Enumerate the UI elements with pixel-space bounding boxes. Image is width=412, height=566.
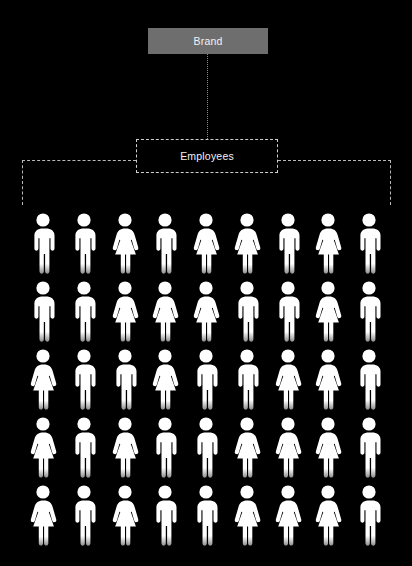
person-female-icon [230,212,264,274]
diagram-canvas: Brand Employees [0,0,412,566]
pictogram-row [0,212,412,280]
pictogram-row [0,280,412,348]
node-employees[interactable]: Employees [136,139,278,173]
person-male-icon [67,484,101,546]
person-female-icon [311,484,345,546]
bracket-drop-left [22,160,23,205]
person-female-icon [148,348,182,410]
person-female-icon [148,280,182,342]
person-male-icon [67,212,101,274]
node-brand[interactable]: Brand [148,28,268,54]
person-male-icon [67,280,101,342]
person-female-icon [311,348,345,410]
pictogram-row [0,484,412,552]
person-female-icon [311,212,345,274]
person-female-icon [108,416,142,478]
person-male-icon [189,484,223,546]
person-female-icon [271,416,305,478]
person-male-icon [26,280,60,342]
person-male-icon [189,348,223,410]
person-male-icon [352,416,386,478]
person-male-icon [271,212,305,274]
person-male-icon [352,212,386,274]
person-female-icon [230,484,264,546]
person-male-icon [67,348,101,410]
person-female-icon [26,416,60,478]
bracket-drop-right [390,160,391,205]
person-male-icon [352,348,386,410]
pictogram-row [0,348,412,416]
person-female-icon [311,416,345,478]
person-male-icon [352,484,386,546]
person-male-icon [67,416,101,478]
employee-pictogram-grid [0,212,412,552]
connector-brand-to-employees [207,54,208,139]
person-male-icon [108,348,142,410]
person-male-icon [148,212,182,274]
person-male-icon [148,484,182,546]
person-male-icon [26,212,60,274]
person-male-icon [230,348,264,410]
bracket-horizontal-left [22,160,136,161]
person-female-icon [271,484,305,546]
person-female-icon [26,484,60,546]
person-female-icon [108,280,142,342]
person-female-icon [189,280,223,342]
person-male-icon [271,280,305,342]
node-brand-label: Brand [193,36,222,47]
person-female-icon [108,212,142,274]
person-male-icon [189,416,223,478]
node-employees-label: Employees [180,151,234,162]
person-female-icon [108,484,142,546]
person-male-icon [230,280,264,342]
person-male-icon [352,280,386,342]
person-male-icon [148,416,182,478]
person-female-icon [230,416,264,478]
person-female-icon [311,280,345,342]
person-female-icon [189,212,223,274]
bracket-horizontal-right [278,160,391,161]
person-female-icon [271,348,305,410]
pictogram-row [0,416,412,484]
person-female-icon [26,348,60,410]
